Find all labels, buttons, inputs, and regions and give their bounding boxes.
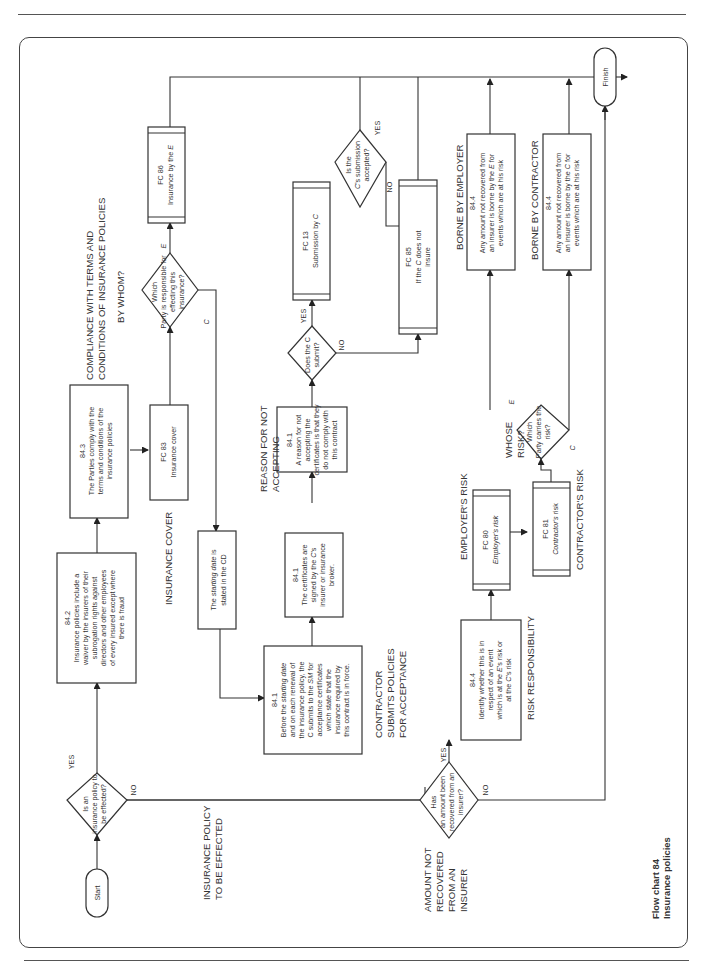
svg-text:If the C does not: If the C does not xyxy=(414,231,423,284)
finish-label-text: Finish xyxy=(601,67,610,86)
svg-text:which state that the: which state that the xyxy=(324,669,333,732)
svg-text:WHOSE: WHOSE xyxy=(503,422,514,458)
label-borne-by-employer: BORNE BY EMPLOYER xyxy=(454,145,465,250)
label-amount-not-recovered: AMOUNT NOTRECOVEREDFROM ANINSURER xyxy=(422,848,469,912)
svg-text:Insurance policies: Insurance policies xyxy=(661,837,672,919)
svg-text:insurance policies: insurance policies xyxy=(105,422,114,480)
svg-text:insurance required by: insurance required by xyxy=(333,665,342,735)
svg-text:C submits to the SM for: C submits to the SM for xyxy=(306,662,315,738)
d1-no: NO xyxy=(129,784,138,795)
svg-text:Employer's risk: Employer's risk xyxy=(491,515,500,564)
svg-text:there is fraud: there is fraud xyxy=(117,597,126,639)
svg-text:an amount been: an amount been xyxy=(438,776,447,828)
d4-no: NO xyxy=(385,181,394,192)
svg-text:be effected?: be effected? xyxy=(99,784,108,823)
svg-text:respect of an event: respect of an event xyxy=(486,649,495,710)
d6-e: E xyxy=(507,399,516,404)
svg-text:FC 83: FC 83 xyxy=(159,442,168,462)
svg-text:the insurance policy, the: the insurance policy, the xyxy=(297,662,306,739)
svg-text:CONTRACTOR: CONTRACTOR xyxy=(373,670,384,738)
svg-text:Which: Which xyxy=(150,282,159,302)
svg-text:do not comply with: do not comply with xyxy=(321,410,330,470)
svg-text:Does the C: Does the C xyxy=(303,337,312,373)
svg-text:AMOUNT NOT: AMOUNT NOT xyxy=(422,848,433,912)
svg-text:certificates is that they: certificates is that they xyxy=(312,404,321,476)
svg-text:stated in the CD: stated in the CD xyxy=(219,554,228,606)
svg-text:recovered from an: recovered from an xyxy=(447,773,456,831)
d2-c: C xyxy=(202,319,211,325)
svg-text:terms and conditions of the: terms and conditions of the xyxy=(96,408,105,494)
svg-text:broker.: broker. xyxy=(327,564,336,586)
d3-yes: YES xyxy=(299,309,308,324)
svg-text:events which are at his risk: events which are at his risk xyxy=(572,159,581,246)
svg-text:Any amount not recovered from: Any amount not recovered from xyxy=(478,153,487,254)
svg-text:COMPLIANCE WITH TERMS AND: COMPLIANCE WITH TERMS AND xyxy=(84,231,95,380)
svg-text:84.4: 84.4 xyxy=(468,196,477,210)
label-by-whom: BY WHOM? xyxy=(115,271,126,323)
svg-text:RISK?: RISK? xyxy=(515,430,526,458)
svg-text:FROM AN: FROM AN xyxy=(446,868,457,912)
svg-text:an insurer is borne by the E f: an insurer is borne by the E for xyxy=(487,153,496,252)
svg-text:A reason for not: A reason for not xyxy=(294,415,303,466)
svg-text:Identify whether this is in: Identify whether this is in xyxy=(477,641,486,720)
svg-text:Contractor's risk: Contractor's risk xyxy=(551,503,560,555)
svg-text:FC 86: FC 86 xyxy=(156,165,165,185)
svg-text:insurer?: insurer? xyxy=(456,789,465,815)
flowchart-diagram: Start Finish Is aninsurance policy tobe … xyxy=(0,0,721,974)
svg-text:FC 80: FC 80 xyxy=(481,530,490,550)
svg-text:Flow chart 84: Flow chart 84 xyxy=(650,858,661,919)
svg-text:The starting date is: The starting date is xyxy=(209,549,218,611)
svg-text:Is an: Is an xyxy=(81,796,90,812)
label-contractors-risk: CONTRACTOR'S RISK xyxy=(574,469,585,570)
d5-no: NO xyxy=(481,784,490,795)
svg-text:this contract: this contract xyxy=(330,421,339,460)
svg-text:The Parties comply with the: The Parties comply with the xyxy=(87,407,96,495)
decision-d3-text: Does the Csubmit? xyxy=(303,337,321,373)
svg-text:risk?: risk? xyxy=(543,424,552,439)
d2-e: E xyxy=(159,243,168,248)
label-borne-by-contractor: BORNE BY CONTRACTOR xyxy=(529,140,540,260)
svg-text:TO BE EFFECTED: TO BE EFFECTED xyxy=(213,818,224,900)
svg-text:this contract is in force.: this contract is in force. xyxy=(342,663,351,737)
svg-text:and on each renewal of: and on each renewal of xyxy=(288,663,297,738)
svg-text:Before the starting date: Before the starting date xyxy=(279,663,288,738)
label-employers-risk: EMPLOYER'S RISK xyxy=(458,473,469,560)
svg-text:84.4: 84.4 xyxy=(468,673,477,687)
label-contractor-submits: CONTRACTORSUBMITS POLICIESFOR ACCEPTANCE xyxy=(373,648,408,738)
svg-text:Party is responsible for: Party is responsible for xyxy=(159,255,168,329)
svg-text:REASON FOR NOT: REASON FOR NOT xyxy=(258,406,269,492)
svg-text:insurer or insurance: insurer or insurance xyxy=(318,543,327,607)
box-84-2-text: 84.2 Insurance policies include a waiver… xyxy=(63,569,126,666)
svg-text:RECOVERED: RECOVERED xyxy=(434,851,445,912)
page-bottom-rule xyxy=(24,960,689,961)
svg-text:Insurance cover: Insurance cover xyxy=(169,426,178,478)
label-compliance: COMPLIANCE WITH TERMS ANDCONDITIONS OF I… xyxy=(84,198,107,380)
svg-text:Any amount not recovered from: Any amount not recovered from xyxy=(554,153,563,254)
svg-text:FOR ACCEPTANCE: FOR ACCEPTANCE xyxy=(397,651,408,738)
svg-text:C's submission: C's submission xyxy=(353,141,362,189)
svg-text:at the C's risk: at the C's risk xyxy=(504,658,513,702)
svg-text:of every insured except where: of every insured except where xyxy=(108,570,117,666)
d1-yes: YES xyxy=(67,755,76,770)
svg-text:Submission by C: Submission by C xyxy=(311,213,320,268)
svg-text:an insurer is borne by the C f: an insurer is borne by the C for xyxy=(563,153,572,252)
svg-text:signed by the C's: signed by the C's xyxy=(309,547,318,602)
svg-text:84.1: 84.1 xyxy=(291,568,300,582)
start-label-text: Start xyxy=(93,885,102,900)
svg-text:FC 13: FC 13 xyxy=(301,231,310,251)
box-84-1a-text: 84.1 Before the starting date and on eac… xyxy=(270,662,351,739)
label-risk-responsibility: RISK RESPONSIBILITY xyxy=(525,615,536,720)
svg-text:events which are at his risk: events which are at his risk xyxy=(496,159,505,246)
svg-text:ACCEPTING: ACCEPTING xyxy=(270,436,281,492)
svg-text:84.4: 84.4 xyxy=(544,196,553,210)
svg-text:84.1: 84.1 xyxy=(270,693,279,707)
svg-text:waiver by the insurers of thei: waiver by the insurers of their xyxy=(81,570,90,665)
svg-text:Has: Has xyxy=(429,795,438,808)
svg-text:INSURER: INSURER xyxy=(458,869,469,912)
svg-text:The certificates are: The certificates are xyxy=(300,544,309,605)
svg-text:84.3: 84.3 xyxy=(78,444,87,458)
svg-text:acceptance certificates: acceptance certificates xyxy=(315,663,324,737)
svg-text:CONDITIONS OF INSURANCE POLICI: CONDITIONS OF INSURANCE POLICIES xyxy=(96,198,107,380)
d4-yes: YES xyxy=(373,121,382,136)
box-start-date-text: The starting date is stated in the CD xyxy=(209,549,228,611)
